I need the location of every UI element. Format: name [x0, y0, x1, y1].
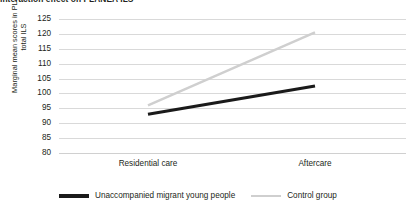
- legend-entry[interactable]: Unaccompanied migrant young people: [59, 191, 235, 201]
- legend-label: Control group: [287, 191, 337, 201]
- legend-entry[interactable]: Control group: [251, 191, 337, 201]
- chart-figure: Interaction effect on PLANEA ILS Margina…: [0, 0, 406, 211]
- series-lines: [0, 0, 406, 211]
- line-swatch-black: [59, 194, 89, 197]
- legend-label: Unaccompanied migrant young people: [95, 191, 235, 201]
- chart-legend: Unaccompanied migrant young peopleContro…: [59, 188, 406, 204]
- series-line: [148, 86, 315, 114]
- series-line: [148, 32, 315, 105]
- line-swatch-gray: [251, 195, 281, 197]
